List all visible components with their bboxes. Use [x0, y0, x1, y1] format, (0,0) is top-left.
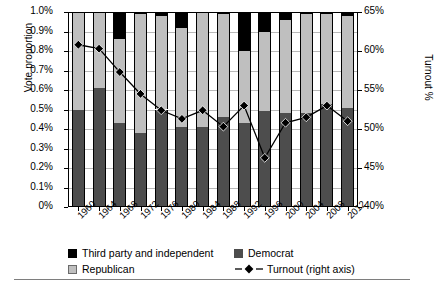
legend-item[interactable]: Republican [68, 263, 234, 275]
plot-area [68, 12, 358, 207]
y-tick-label-right: 40% [364, 201, 408, 211]
legend-swatch-rep [68, 265, 77, 274]
y-tick-mark-right [358, 90, 362, 91]
legend-swatch-dem [234, 249, 243, 258]
legend-line-marker-icon [234, 264, 264, 274]
y-tick-label-left: 0.2% [0, 162, 53, 172]
y-tick-label-left: 0.6% [0, 84, 53, 94]
y-tick-mark-left [64, 168, 68, 169]
y-tick-label-right: 55% [364, 84, 408, 94]
legend-row: Third party and independentDemocrat [68, 245, 388, 261]
y-tick-label-right: 65% [364, 6, 408, 16]
footer-rule [14, 279, 410, 280]
legend-label: Third party and independent [82, 247, 213, 259]
y-tick-mark-right [358, 168, 362, 169]
legend-item[interactable]: Third party and independent [68, 247, 234, 259]
chart-legend: Third party and independentDemocratRepub… [68, 245, 388, 277]
y-tick-label-left: 0.4% [0, 123, 53, 133]
legend-label: Republican [82, 263, 135, 275]
y-tick-label-left: 0.1% [0, 182, 53, 192]
y-tick-mark-right [358, 12, 362, 13]
y-tick-label-left: 0.8% [0, 45, 53, 55]
y-tick-mark-left [64, 129, 68, 130]
legend-label: Turnout (right axis) [267, 263, 355, 275]
y-tick-label-left: 0.9% [0, 26, 53, 36]
y-tick-label-right: 60% [364, 45, 408, 55]
legend-swatch-third [68, 249, 77, 258]
y-tick-mark-right [358, 129, 362, 130]
y-tick-label-right: 45% [364, 162, 408, 172]
y-tick-mark-left [64, 188, 68, 189]
legend-item[interactable]: Democrat [234, 247, 294, 259]
y-tick-label-left: 0.5% [0, 104, 53, 114]
y-axis-title-right: Turnout % [423, 24, 434, 132]
y-tick-mark-left [64, 32, 68, 33]
y-tick-mark-left [64, 12, 68, 13]
y-tick-label-left: 0.3% [0, 143, 53, 153]
y-tick-label-left: 0.7% [0, 65, 53, 75]
y-tick-mark-left [64, 149, 68, 150]
plot-frame [68, 12, 358, 207]
y-tick-label-left: 1.0% [0, 6, 53, 16]
y-tick-mark-left [64, 207, 68, 208]
legend-item[interactable]: Turnout (right axis) [234, 263, 355, 275]
y-tick-label-right: 50% [364, 123, 408, 133]
y-tick-label-left: 0% [0, 201, 53, 211]
legend-label: Democrat [248, 247, 294, 259]
y-tick-mark-right [358, 51, 362, 52]
y-tick-mark-left [64, 71, 68, 72]
legend-row: RepublicanTurnout (right axis) [68, 261, 388, 277]
y-tick-mark-left [64, 51, 68, 52]
y-tick-mark-left [64, 90, 68, 91]
y-tick-mark-left [64, 110, 68, 111]
